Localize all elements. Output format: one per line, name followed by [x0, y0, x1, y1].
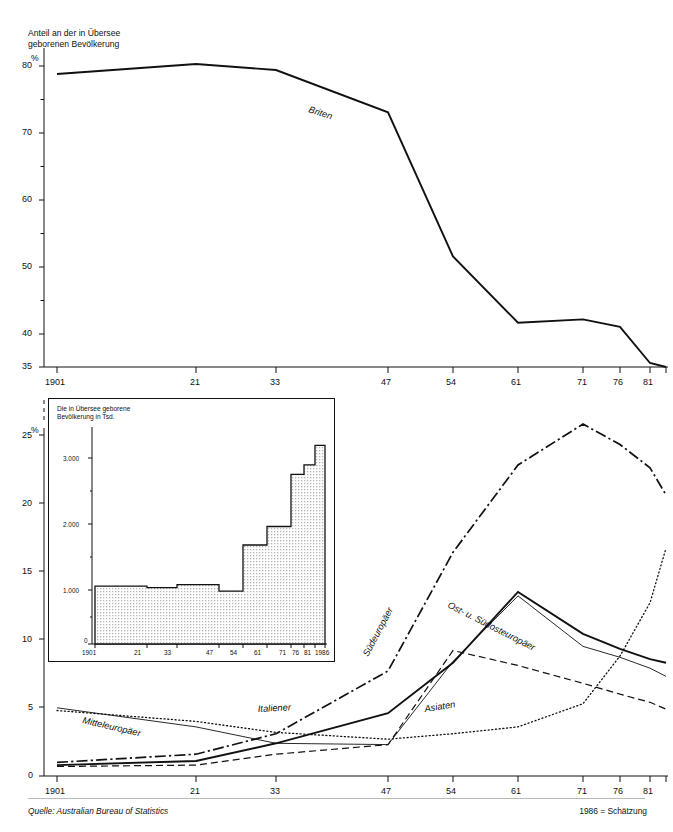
- upper-xtick-81: 81: [643, 377, 653, 387]
- footer-divider: [28, 798, 645, 799]
- lower-xtick-54: 54: [446, 786, 456, 796]
- lower-unit-label: %: [31, 425, 39, 435]
- inset-xtick-33: 33: [164, 649, 171, 656]
- inset-caption: Die in Übersee geborene Bevölkerung in T…: [57, 405, 130, 422]
- upper-xtick-21: 21: [190, 377, 200, 387]
- series-label-ost-suedost: Ost- u. Südosteuropäer: [446, 600, 537, 653]
- lower-ytick-5: 5: [28, 702, 33, 712]
- inset-ytick-0: 0: [84, 637, 88, 644]
- title-fragment: [38, 1, 638, 13]
- lower-ytick-10: 10: [22, 634, 32, 644]
- inset-xtick-71: 71: [279, 649, 286, 656]
- inset-y-ticks: [88, 458, 92, 644]
- lower-xtick-21: 21: [190, 786, 200, 796]
- upper-plot-svg: Briten: [0, 26, 673, 376]
- upper-ytick-50: 50: [22, 261, 32, 271]
- series-label-italiener: Italiener: [258, 702, 292, 714]
- estimate-note: 1986 = Schätzung: [579, 806, 647, 816]
- upper-xtick-76: 76: [613, 377, 623, 387]
- inset-xtick-1901: 1901: [82, 649, 96, 656]
- lower-x-ticks: [57, 776, 666, 782]
- upper-xtick-33: 33: [270, 377, 280, 387]
- lower-xtick-1901: 1901: [45, 786, 65, 796]
- upper-ytick-40: 40: [22, 328, 32, 338]
- inset-xtick-21: 21: [134, 649, 141, 656]
- upper-chart: Anteil an der in Übersee geborenen Bevöl…: [0, 26, 673, 376]
- lower-xtick-76: 76: [613, 786, 623, 796]
- inset-xtick-76: 76: [292, 649, 299, 656]
- upper-xtick-1901: 1901: [45, 377, 65, 387]
- lower-ytick-25: 25: [22, 430, 32, 440]
- inset-xtick-1986: 1986: [315, 649, 329, 656]
- lower-xtick-71: 71: [577, 786, 587, 796]
- upper-axis-caption: Anteil an der in Übersee geborenen Bevöl…: [28, 28, 120, 50]
- inset-chart: Die in Übersee geborene Bevölkerung in T…: [48, 398, 335, 662]
- upper-x-ticks: [57, 367, 666, 373]
- upper-xtick-61: 61: [511, 377, 521, 387]
- lower-xtick-33: 33: [270, 786, 280, 796]
- upper-ytick-35: 35: [22, 361, 32, 371]
- series-label-asiaten: Asiaten: [423, 699, 456, 714]
- lower-ytick-20: 20: [22, 498, 32, 508]
- inset-plot-svg: [49, 399, 334, 661]
- series-briten-line: [57, 64, 666, 367]
- lower-xtick-81: 81: [643, 786, 653, 796]
- source-note: Quelle: Australian Bureau of Statistics: [28, 806, 168, 816]
- inset-step-area: [95, 445, 325, 644]
- upper-xtick-54: 54: [446, 377, 456, 387]
- upper-ytick-80: 80: [22, 60, 32, 70]
- inset-ytick-3000: 3.000: [63, 455, 79, 462]
- inset-xtick-61: 61: [254, 649, 261, 656]
- series-ost-suedost-line: [57, 651, 666, 767]
- chart-page: Anteil an der in Übersee geborenen Bevöl…: [0, 0, 673, 832]
- upper-xtick-71: 71: [577, 377, 587, 387]
- inset-ytick-2000: 2.000: [63, 521, 79, 528]
- inset-xtick-81: 81: [304, 649, 311, 656]
- upper-y-ticks: [39, 66, 44, 367]
- series-label-briten: Briten: [307, 104, 333, 121]
- upper-ytick-70: 70: [22, 127, 32, 137]
- upper-unit-label: %: [31, 53, 39, 63]
- series-label-suedeuropaeer: Südeuropäer: [361, 605, 395, 658]
- inset-xtick-47: 47: [206, 649, 213, 656]
- upper-xtick-47: 47: [381, 377, 391, 387]
- lower-xtick-47: 47: [381, 786, 391, 796]
- lower-ytick-0: 0: [28, 770, 33, 780]
- lower-ytick-15: 15: [22, 566, 32, 576]
- lower-y-ticks: [39, 435, 44, 776]
- inset-ytick-1000: 1.000: [63, 587, 79, 594]
- upper-ytick-60: 60: [22, 194, 32, 204]
- lower-xtick-61: 61: [511, 786, 521, 796]
- inset-xtick-54: 54: [230, 649, 237, 656]
